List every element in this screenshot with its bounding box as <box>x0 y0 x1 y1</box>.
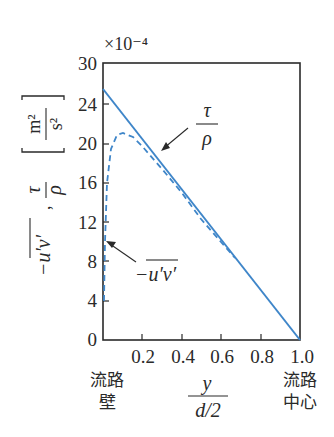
wall-label-line1: 流路 <box>90 370 124 390</box>
chart-figure: ×10⁻⁴ 0 4 8 12 16 20 24 30 0.2 0.4 0.6 0… <box>0 0 334 437</box>
x-tick-1-0: 1.0 <box>290 346 314 367</box>
y-tick-4: 4 <box>88 290 98 311</box>
arrow-head-icon <box>161 142 170 151</box>
y-tick-16: 16 <box>78 172 97 193</box>
center-label-line1: 流路 <box>283 370 317 390</box>
y-tick-24: 24 <box>78 94 98 115</box>
y-label-comma: , <box>34 206 54 211</box>
x-left-annotation: 流路 壁 <box>90 370 124 412</box>
y-tick-0: 0 <box>88 329 98 350</box>
annotation-rho: ρ <box>201 127 212 150</box>
y-label-unit-num: m² <box>24 114 44 133</box>
y-axis-tick-labels: 0 4 8 12 16 20 24 30 <box>78 53 98 350</box>
x-axis-label: y d/2 <box>188 372 228 421</box>
y-label-uv: −u′v′ <box>32 234 54 276</box>
x-axis-ticks <box>142 334 261 340</box>
x-tick-0-8: 0.8 <box>250 346 274 367</box>
x-tick-0-2: 0.2 <box>131 346 155 367</box>
y-label-rho: ρ <box>43 185 66 196</box>
x-tick-0-4: 0.4 <box>171 346 195 367</box>
x-label-denominator: d/2 <box>195 399 221 421</box>
y-tick-8: 8 <box>88 251 98 272</box>
annotation-tau-over-rho: τ ρ <box>161 99 218 151</box>
y-axis-label: −u′v′ , τ ρ m² s² <box>22 96 66 276</box>
y-label-unit-den: s² <box>46 118 66 130</box>
x-label-numerator: y <box>201 372 212 395</box>
scale-factor-label: ×10⁻⁴ <box>104 34 148 54</box>
y-axis-ticks <box>103 104 109 301</box>
annotation-reynolds-stress: −u′v′ <box>106 241 178 285</box>
y-label-tau: τ <box>22 186 44 194</box>
y-tick-12: 12 <box>78 212 97 233</box>
x-axis-tick-labels: 0.2 0.4 0.6 0.8 1.0 <box>131 346 314 367</box>
center-label-line2: 中心 <box>283 392 317 412</box>
y-tick-30: 30 <box>78 53 97 74</box>
plot-frame <box>103 63 300 340</box>
wall-label-line2: 壁 <box>99 392 116 412</box>
x-tick-0-6: 0.6 <box>210 346 234 367</box>
annotation-uv: −u′v′ <box>135 263 177 285</box>
y-tick-20: 20 <box>78 133 97 154</box>
x-right-annotation: 流路 中心 <box>283 370 317 412</box>
annotation-tau: τ <box>203 99 211 121</box>
